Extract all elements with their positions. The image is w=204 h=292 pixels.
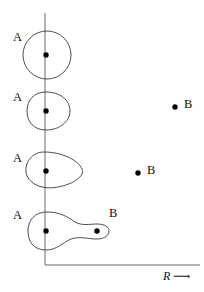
dot-a-row1: [43, 52, 48, 57]
label-b-free-upper: B: [184, 98, 192, 111]
label-a-row2: A: [13, 91, 22, 104]
axis-label-r: R: [163, 270, 170, 282]
row-1-shape-group: [23, 31, 71, 79]
dot-b-free-lower: [135, 170, 140, 175]
row-2-shape-group: [27, 92, 70, 130]
label-a-row4: A: [13, 209, 22, 222]
diagram-figure: A A A A B B B R ⟶: [0, 0, 204, 292]
dot-a-row3: [43, 168, 48, 173]
row-3-shape-group: [26, 152, 83, 188]
label-a-row3: A: [13, 152, 22, 165]
axis-arrow-icon: ⟶: [173, 270, 189, 282]
dot-a-row4: [43, 228, 48, 233]
label-b-row4: B: [109, 207, 117, 220]
label-b-free-lower: B: [147, 164, 155, 177]
label-a-row1: A: [13, 31, 22, 44]
contour-teardrop-row3: [26, 152, 83, 188]
diagram-canvas: [0, 0, 204, 292]
free-points-group: [135, 104, 177, 175]
dot-a-row2: [43, 108, 48, 113]
dot-b-free-upper: [172, 104, 177, 109]
dot-b-row4: [94, 228, 99, 233]
row-4-shape-group: [28, 212, 109, 250]
axes-group: [45, 13, 200, 265]
